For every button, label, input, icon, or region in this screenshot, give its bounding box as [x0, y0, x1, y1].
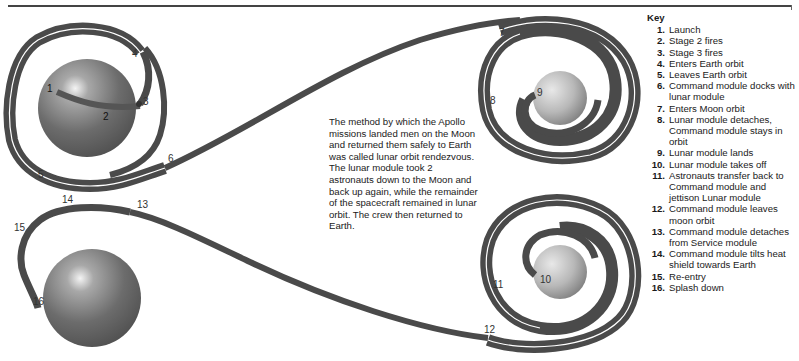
step-label-2: 2 [103, 111, 109, 122]
key-text: Leaves Earth orbit [669, 69, 797, 80]
key-text: Command module docks with lunar module [669, 80, 797, 102]
key-number: 13. [647, 226, 669, 248]
key-item: 5.Leaves Earth orbit [647, 69, 797, 80]
key-number: 12. [647, 203, 669, 225]
key-item: 15.Re-entry [647, 271, 797, 282]
key-item: 11.Astronauts transfer back to Command m… [647, 170, 797, 204]
earth-return-group [21, 207, 141, 347]
key-item: 8.Lunar module detaches, Command module … [647, 114, 797, 148]
key-number: 1. [647, 24, 669, 35]
key-text: Stage 2 fires [669, 35, 797, 46]
key-number: 9. [647, 147, 669, 158]
key-number: 8. [647, 114, 669, 148]
step-label-4: 4 [132, 48, 138, 59]
moon-arrival-group [484, 22, 635, 158]
key-number: 4. [647, 58, 669, 69]
step-label-11: 11 [493, 279, 504, 290]
key-number: 5. [647, 69, 669, 80]
step-label-10: 10 [540, 274, 552, 285]
key-text: Command module tilts heat shield towards… [669, 248, 797, 270]
key-number: 3. [647, 47, 669, 58]
key-item: 9.Lunar module lands [647, 147, 797, 158]
key-text: Lunar module takes off [669, 159, 797, 170]
earth-return-globe [43, 249, 141, 347]
key-number: 10. [647, 159, 669, 170]
key-title: Key [647, 12, 797, 23]
moon-departure-group [486, 200, 635, 347]
key-item: 13.Command module detaches from Service … [647, 226, 797, 248]
step-label-12: 12 [484, 324, 496, 335]
step-label-1: 1 [47, 83, 53, 94]
key-item: 3.Stage 3 fires [647, 47, 797, 58]
key-text: Command module detaches from Service mod… [669, 226, 797, 248]
step-label-7: 7 [499, 27, 505, 38]
moon-departure-globe [533, 245, 587, 299]
key-text: Lunar module detaches, Command module st… [669, 114, 797, 148]
key-text: Stage 3 fires [669, 47, 797, 58]
key-number: 6. [647, 80, 669, 102]
key-item: 14.Command module tilts heat shield towa… [647, 248, 797, 270]
key-number: 15. [647, 271, 669, 282]
key-text: Launch [669, 24, 797, 35]
step-label-3: 3 [143, 96, 149, 107]
step-label-8: 8 [490, 95, 496, 106]
key-item: 1.Launch [647, 24, 797, 35]
key-text: Command module leaves moon orbit [669, 203, 797, 225]
key-number: 14. [647, 248, 669, 270]
key-text: Lunar module lands [669, 147, 797, 158]
key-text: Astronauts transfer back to Command modu… [669, 170, 797, 204]
key-text: Splash down [669, 282, 797, 293]
key-text: Enters Earth orbit [669, 58, 797, 69]
key-number: 16. [647, 282, 669, 293]
step-label-16: 16 [33, 296, 45, 307]
earth-launch-group [10, 29, 165, 186]
key-item: 12.Command module leaves moon orbit [647, 203, 797, 225]
step-label-13: 13 [137, 199, 149, 210]
moon-arrival-globe [533, 71, 587, 125]
step-label-14: 14 [62, 194, 74, 205]
step-label-6: 6 [168, 153, 174, 164]
key-text: Re-entry [669, 271, 797, 282]
key-item: 2.Stage 2 fires [647, 35, 797, 46]
key-text: Enters Moon orbit [669, 103, 797, 114]
stage3-marker [136, 101, 142, 107]
key-item: 7.Enters Moon orbit [647, 103, 797, 114]
description-paragraph: The method by which the Apollo missions … [329, 116, 479, 232]
step-label-5: 5 [38, 169, 44, 180]
key-item: 4.Enters Earth orbit [647, 58, 797, 69]
key-number: 2. [647, 35, 669, 46]
step-label-9: 9 [537, 87, 543, 98]
step-label-15: 15 [14, 222, 26, 233]
key-number: 7. [647, 103, 669, 114]
key-number: 11. [647, 170, 669, 204]
key-legend: Key 1.Launch 2.Stage 2 fires 3.Stage 3 f… [647, 12, 797, 293]
key-item: 16.Splash down [647, 282, 797, 293]
key-item: 10.Lunar module takes off [647, 159, 797, 170]
key-item: 6.Command module docks with lunar module [647, 80, 797, 102]
